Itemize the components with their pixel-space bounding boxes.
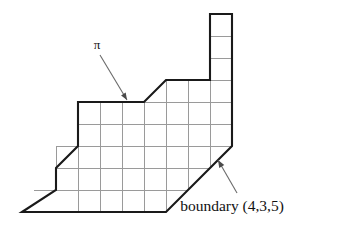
pi-label: π (94, 37, 101, 52)
skew-shape-diagram: π boundary (4,3,5) (0, 0, 354, 232)
figure-container: π boundary (4,3,5) (0, 0, 354, 232)
boundary-caption: boundary (4,3,5) (180, 197, 284, 215)
canvas-background (0, 0, 354, 232)
